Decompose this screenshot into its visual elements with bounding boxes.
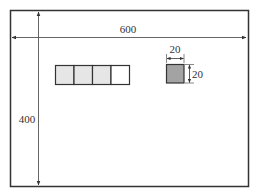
height-label: 400 xyxy=(19,113,36,125)
width-label: 600 xyxy=(120,23,137,35)
small-square-height-label: 20 xyxy=(192,68,204,80)
cell-2 xyxy=(74,66,93,85)
cell-4 xyxy=(111,66,130,85)
small-square-width-label: 20 xyxy=(170,43,182,55)
outer-rectangle xyxy=(11,11,249,187)
small-square xyxy=(167,65,185,84)
diagram-canvas: 600 400 20 20 xyxy=(0,0,256,195)
cell-1 xyxy=(56,66,75,85)
cell-row xyxy=(56,66,130,85)
cell-3 xyxy=(93,66,112,85)
